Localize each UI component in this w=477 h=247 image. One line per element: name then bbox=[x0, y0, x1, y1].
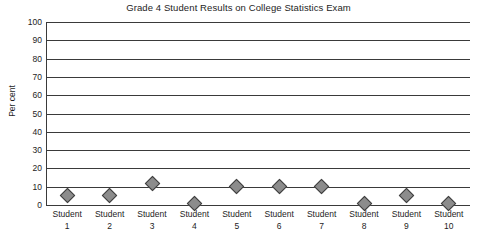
x-tick-name: Student bbox=[137, 209, 166, 219]
gridline bbox=[46, 205, 470, 206]
x-tick-name: Student bbox=[307, 209, 336, 219]
y-axis-tick-label: 80 bbox=[8, 55, 42, 64]
x-axis-tick-labels: Student1Student2Student3Student4Student5… bbox=[46, 208, 470, 246]
gridline bbox=[46, 114, 470, 115]
gridline bbox=[46, 168, 470, 169]
data-point-marker bbox=[102, 188, 118, 204]
x-axis-tick-label: Student10 bbox=[421, 208, 477, 232]
gridline bbox=[46, 59, 470, 60]
x-tick-name: Student bbox=[265, 209, 294, 219]
x-tick-name: Student bbox=[434, 209, 463, 219]
x-tick-name: Student bbox=[392, 209, 421, 219]
data-point-marker bbox=[314, 179, 330, 195]
chart-container: Grade 4 Student Results on College Stati… bbox=[0, 0, 477, 247]
gridline bbox=[46, 77, 470, 78]
gridline bbox=[46, 95, 470, 96]
y-axis-tick-label: 20 bbox=[8, 164, 42, 173]
x-tick-name: Student bbox=[53, 209, 82, 219]
y-axis-tick-label: 90 bbox=[8, 36, 42, 45]
x-tick-name: Student bbox=[222, 209, 251, 219]
x-tick-number: 10 bbox=[421, 220, 477, 232]
y-axis-tick-label: 30 bbox=[8, 146, 42, 155]
y-axis-title: Per cent bbox=[7, 71, 17, 131]
data-point-marker bbox=[399, 188, 415, 204]
plot-area bbox=[46, 22, 470, 205]
y-axis-tick-label: 100 bbox=[8, 18, 42, 27]
gridline bbox=[46, 22, 470, 23]
gridline bbox=[46, 150, 470, 151]
data-point-marker bbox=[229, 179, 245, 195]
gridline bbox=[46, 132, 470, 133]
x-tick-name: Student bbox=[349, 209, 378, 219]
x-tick-name: Student bbox=[95, 209, 124, 219]
y-axis-tick-label: 10 bbox=[8, 183, 42, 192]
data-point-marker bbox=[271, 179, 287, 195]
data-point-marker bbox=[144, 175, 160, 191]
x-tick-name: Student bbox=[180, 209, 209, 219]
y-axis-tick-label: 0 bbox=[8, 201, 42, 210]
data-point-marker bbox=[59, 188, 75, 204]
gridline bbox=[46, 40, 470, 41]
chart-title: Grade 4 Student Results on College Stati… bbox=[0, 2, 477, 13]
